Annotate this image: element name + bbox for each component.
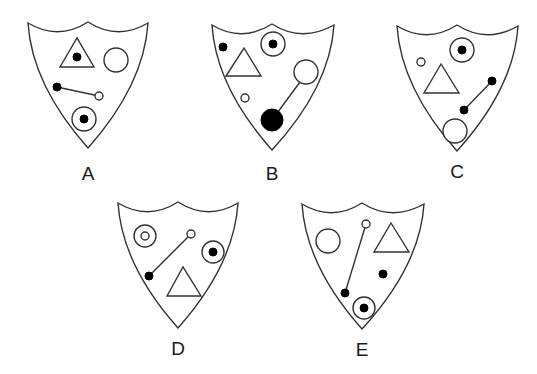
solid-dot xyxy=(379,270,387,278)
target-dot xyxy=(80,115,88,123)
line-end-solid xyxy=(145,272,153,280)
shield-label: E xyxy=(356,339,369,360)
open-circle xyxy=(104,48,128,72)
line-end-solid xyxy=(53,83,61,91)
line-end-open xyxy=(362,220,370,228)
line-end-solid xyxy=(488,77,496,85)
shield-outline xyxy=(118,202,238,328)
double-circle-inner xyxy=(141,232,149,240)
target-dot xyxy=(269,40,277,48)
shield-e[interactable]: E xyxy=(302,203,424,360)
shield-d[interactable]: D xyxy=(118,202,238,359)
shield-puzzle-canvas: ABCDE xyxy=(0,0,537,374)
shield-b[interactable]: B xyxy=(212,24,334,184)
shield-label: A xyxy=(82,163,95,184)
line-end-open xyxy=(187,230,195,238)
line-end-solid xyxy=(460,106,468,114)
triangle-dot xyxy=(73,53,81,61)
open-circle xyxy=(241,94,249,102)
target-dot xyxy=(360,304,368,312)
solid-dot xyxy=(219,43,227,51)
target-dot xyxy=(209,248,217,256)
line-end-open xyxy=(95,92,103,100)
shield-c[interactable]: C xyxy=(397,25,518,182)
open-circle xyxy=(316,229,340,253)
shield-label: B xyxy=(266,163,279,184)
shield-a[interactable]: A xyxy=(28,22,148,184)
shield-label: C xyxy=(450,161,464,182)
shield-label: D xyxy=(171,338,185,359)
open-circle xyxy=(417,58,425,66)
open-circle xyxy=(294,60,318,84)
line-end-solid xyxy=(261,109,283,131)
line-end-solid xyxy=(341,289,349,297)
open-circle xyxy=(443,119,467,143)
target-dot xyxy=(458,46,466,54)
